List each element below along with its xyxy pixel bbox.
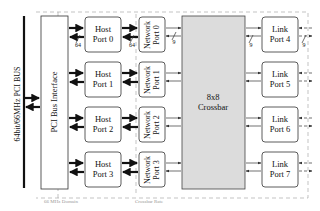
network-port-line1: Network [143, 66, 152, 94]
host-port-line1: Host [95, 159, 112, 169]
host-port-line2: Port 3 [93, 169, 114, 179]
network-port-line2: Port 1 [152, 70, 161, 89]
network-port-line2: Port 0 [152, 25, 161, 44]
link-port-line1: Link [272, 24, 289, 34]
pci-bus-interface-label: PCI Bus Interface [49, 71, 59, 132]
network-port-line2: Port 2 [152, 115, 161, 134]
network-interface-diagram: 64bit/66MHz PCI BUS PCI Bus Interface Ho… [0, 0, 320, 211]
link-port-line2: Port 5 [270, 79, 291, 89]
link-port-line1: Link [272, 114, 289, 124]
link-port-line1: Link [272, 159, 289, 169]
footer-label-left: 66 MHz Domain [44, 199, 78, 204]
network-port-line1: Network [143, 111, 152, 139]
network-port-line1: Network [143, 156, 152, 184]
link-port-line2: Port 6 [270, 124, 291, 134]
host-port-line1: Host [95, 69, 112, 79]
footer-label-middle: Crossbar Rate [135, 199, 164, 204]
bit-width-label-link-out: 9 [303, 42, 306, 48]
host-port-line2: Port 2 [93, 124, 114, 134]
crossbar-line1: 8x8 [207, 92, 220, 102]
host-port-line1: Host [95, 24, 112, 34]
network-port-line2: Port 3 [152, 160, 161, 179]
host-port-line1: Host [95, 114, 112, 124]
network-port-line1: Network [143, 21, 152, 49]
crossbar-line2: Crossbar [198, 102, 228, 112]
link-port-line1: Link [272, 69, 289, 79]
bit-width-label-network-crossbar: 9 [173, 39, 176, 45]
link-port-line2: Port 7 [270, 169, 291, 179]
link-port-line2: Port 4 [270, 34, 291, 44]
host-port-line2: Port 1 [93, 79, 114, 89]
host-port-line2: Port 0 [93, 34, 114, 44]
bit-width-label-crossbar-link: 9 [250, 42, 253, 48]
pci-bus-label: 64bit/66MHz PCI BUS [13, 66, 22, 141]
